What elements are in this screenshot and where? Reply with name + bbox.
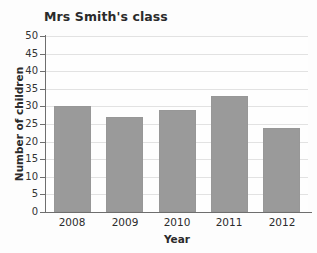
y-axis-tick-label: 10 <box>8 172 38 182</box>
x-axis-label-2008: 2008 <box>42 216 102 228</box>
bar-2011[interactable] <box>211 96 248 212</box>
y-axis-tick-label-text: 20 <box>12 137 38 147</box>
bar-2012[interactable] <box>263 128 300 212</box>
y-axis-tick-label-text: 40 <box>12 66 38 76</box>
y-axis-tick-label-text: 45 <box>12 49 38 59</box>
y-axis-tick-label: 30 <box>8 101 38 111</box>
y-axis-tick-label: 40 <box>8 66 38 76</box>
y-axis-tick-label: 0 <box>8 207 38 217</box>
y-axis-tick-label-text: 35 <box>12 84 38 94</box>
y-axis-tick-label: 5 <box>8 189 38 199</box>
bar-2010[interactable] <box>159 110 196 212</box>
x-axis-label-2012: 2012 <box>252 216 312 228</box>
gridline <box>46 36 308 37</box>
y-axis-tick-label-text: 0 <box>12 207 38 217</box>
chart-title: Mrs Smith's class <box>44 9 168 24</box>
y-axis-tick-label: 20 <box>8 137 38 147</box>
y-axis-tick-label-text: 5 <box>12 189 38 199</box>
bar-2008[interactable] <box>54 106 91 212</box>
y-axis-tick-label-text: 30 <box>12 101 38 111</box>
y-axis-tick-label-text: 50 <box>12 31 38 41</box>
y-axis-tick-label: 25 <box>8 119 38 129</box>
bar-2009[interactable] <box>106 117 143 212</box>
x-axis-label-2010: 2010 <box>147 216 207 228</box>
gridline <box>46 54 308 55</box>
x-axis-label-2009: 2009 <box>95 216 155 228</box>
y-axis-tick-label-text: 25 <box>12 119 38 129</box>
y-axis-tick-label: 45 <box>8 49 38 59</box>
gridline <box>46 71 308 72</box>
chart-page: Mrs Smith's class Number of children 504… <box>0 0 317 253</box>
y-axis-tick-label: 50 <box>8 31 38 41</box>
x-axis-title: Year <box>46 233 308 245</box>
x-axis-baseline <box>46 212 312 213</box>
y-axis-tick-label: 35 <box>8 84 38 94</box>
y-axis-tick-label-text: 10 <box>12 172 38 182</box>
y-axis-tick-label-text: 15 <box>12 154 38 164</box>
x-axis-label-2011: 2011 <box>199 216 259 228</box>
plot-area <box>46 36 308 212</box>
gridline <box>46 89 308 90</box>
y-axis-tick-label: 15 <box>8 154 38 164</box>
